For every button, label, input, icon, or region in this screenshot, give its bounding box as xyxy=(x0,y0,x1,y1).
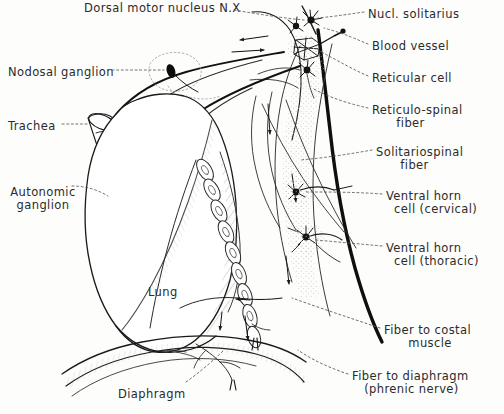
label-nucl-solitarius: Nucl. solitarius xyxy=(368,8,459,21)
label-autonomic-ganglion: Autonomic ganglion xyxy=(4,186,82,212)
label-blood-vessel: Blood vessel xyxy=(372,40,449,53)
page-title: Dorsal motor nucleus N.X xyxy=(84,2,241,15)
label-diaphragm: Diaphragm xyxy=(118,388,186,401)
label-fiber-to-diaphragm: Fiber to diaphragm (phrenic nerve) xyxy=(352,370,469,396)
lung-outline xyxy=(85,94,240,352)
label-reticulo-spinal-fiber: Reticulo-spinal fiber xyxy=(372,104,462,130)
label-solitariospinal-fiber: Solitariospinal fiber xyxy=(376,146,463,172)
label-fiber-to-costal-muscle: Fiber to costal muscle xyxy=(384,324,471,350)
label-ventral-horn-cell-cervical: Ventral horn cell (cervical) xyxy=(386,190,477,216)
label-lung: Lung xyxy=(148,286,178,299)
label-ventral-horn-cell-thoracic: Ventral horn cell (thoracic) xyxy=(386,242,479,268)
label-trachea: Trachea xyxy=(8,120,56,133)
label-nodosal-ganglion: Nodosal ganglion xyxy=(8,66,114,79)
label-reticular-cell: Reticular cell xyxy=(372,72,452,85)
anatomical-diagram-figure: Dorsal motor nucleus N.X Nodosal ganglio… xyxy=(0,0,504,414)
